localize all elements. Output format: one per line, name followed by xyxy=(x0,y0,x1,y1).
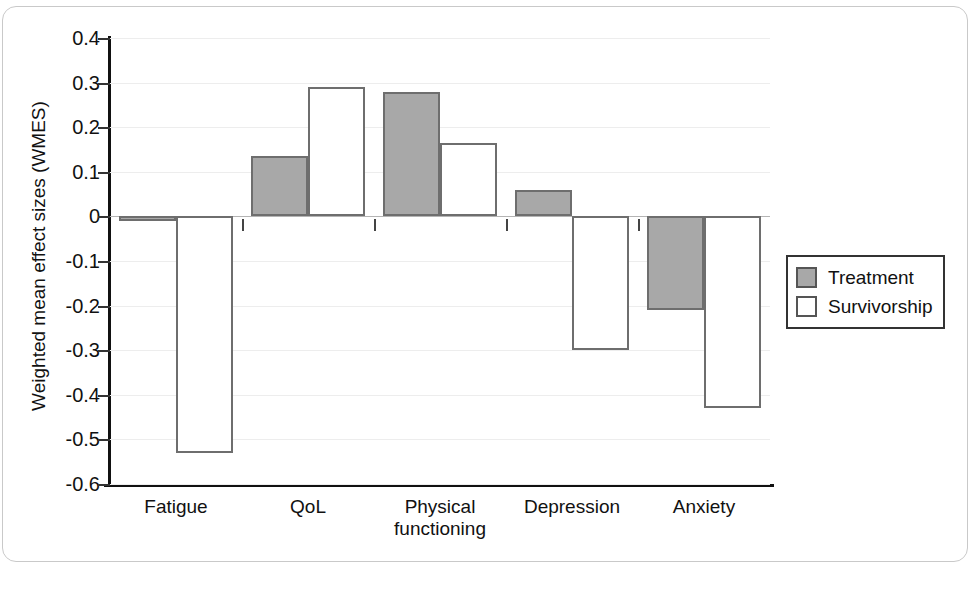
y-axis-tick-mark xyxy=(98,216,110,218)
y-axis-tick-label: -0.6 xyxy=(44,474,100,494)
x-axis-label-line: QoL xyxy=(242,496,374,518)
x-axis-label-fatigue: Fatigue xyxy=(110,496,242,518)
gridline xyxy=(110,83,770,84)
legend-swatch-icon xyxy=(796,296,817,317)
y-axis-tick-mark xyxy=(98,261,110,263)
y-axis-tick-label: -0.1 xyxy=(44,251,100,271)
bar-fatigue-survivorship xyxy=(176,216,233,452)
x-axis-label-line: Physical xyxy=(374,496,506,518)
legend-swatch-icon xyxy=(796,267,817,288)
x-axis-label-line: Depression xyxy=(506,496,638,518)
plot-area xyxy=(110,38,770,484)
y-axis-tick-label: 0.4 xyxy=(44,28,100,48)
y-axis-tick-mark xyxy=(98,350,110,352)
y-axis-tick-mark xyxy=(98,439,110,441)
x-axis-tick-mark xyxy=(506,219,508,231)
bar-physical-functioning-treatment xyxy=(383,92,440,217)
y-axis-tick-mark xyxy=(98,172,110,174)
x-axis-label-line: Anxiety xyxy=(638,496,770,518)
bar-chart-figure: Weighted mean effect sizes (WMES) 0.40.3… xyxy=(0,0,977,589)
y-axis-tick-labels: 0.40.30.20.10-0.1-0.2-0.3-0.4-0.5-0.6 xyxy=(44,0,100,589)
x-axis-tick-mark xyxy=(638,219,640,231)
x-axis-label-line: functioning xyxy=(374,518,506,540)
y-axis-tick-label: -0.3 xyxy=(44,340,100,360)
x-axis-label-qol: QoL xyxy=(242,496,374,518)
bar-qol-treatment xyxy=(251,156,308,216)
x-axis-label-depression: Depression xyxy=(506,496,638,518)
x-axis-label-physical-functioning: Physicalfunctioning xyxy=(374,496,506,540)
y-axis-tick-mark xyxy=(98,306,110,308)
x-axis-tick-mark xyxy=(242,219,244,231)
bar-anxiety-treatment xyxy=(647,216,704,310)
bar-depression-survivorship xyxy=(572,216,629,350)
y-axis-tick-mark xyxy=(98,395,110,397)
gridline xyxy=(110,484,770,485)
y-axis-tick-mark xyxy=(98,484,110,486)
gridline xyxy=(110,127,770,128)
y-axis-tick-label: 0.2 xyxy=(44,117,100,137)
y-axis-tick-mark xyxy=(98,38,110,40)
y-axis-tick-label: 0.1 xyxy=(44,162,100,182)
x-axis-category-labels: FatigueQoLPhysicalfunctioningDepressionA… xyxy=(110,496,770,566)
bar-depression-treatment xyxy=(515,190,572,217)
bar-fatigue-treatment xyxy=(119,216,176,220)
legend-item-survivorship: Survivorship xyxy=(796,292,933,321)
bar-physical-functioning-survivorship xyxy=(440,143,497,217)
y-axis-tick-label: -0.2 xyxy=(44,296,100,316)
legend-item-treatment: Treatment xyxy=(796,263,933,292)
x-axis-tick-mark xyxy=(374,219,376,231)
y-axis-tick-label: -0.5 xyxy=(44,429,100,449)
x-axis-label-line: Fatigue xyxy=(110,496,242,518)
x-axis-label-anxiety: Anxiety xyxy=(638,496,770,518)
y-axis-tick-label: 0.3 xyxy=(44,73,100,93)
y-axis-tick-mark xyxy=(98,83,110,85)
bar-qol-survivorship xyxy=(308,87,365,216)
bar-anxiety-survivorship xyxy=(704,216,761,408)
legend-label: Treatment xyxy=(828,267,914,289)
gridline xyxy=(110,38,770,39)
y-axis-tick-label: -0.4 xyxy=(44,385,100,405)
legend-label: Survivorship xyxy=(828,296,933,318)
y-axis-tick-mark xyxy=(98,127,110,129)
y-axis-tick-label: 0 xyxy=(44,206,100,226)
chart-legend: TreatmentSurvivorship xyxy=(786,255,945,329)
